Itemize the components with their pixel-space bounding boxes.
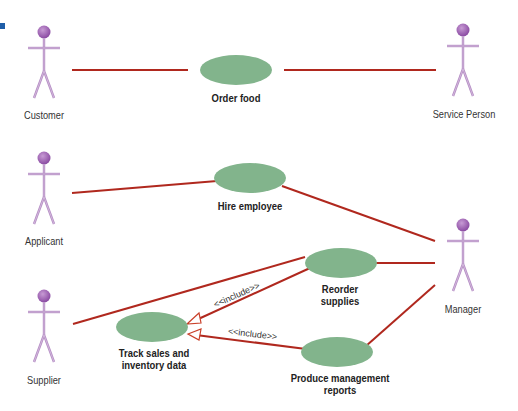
actor-service-person-icon[interactable]	[447, 24, 479, 97]
actor-manager-icon[interactable]	[447, 219, 479, 292]
actor-label-supplier: Supplier	[18, 374, 71, 386]
usecase-label-produce-reports: Produce management reports	[286, 372, 394, 396]
usecase-label-line: supplies	[304, 295, 376, 307]
usecase-produce-reports[interactable]	[301, 337, 373, 367]
include-reorder-track	[194, 268, 310, 321]
assoc-hire-employee-manager	[282, 186, 435, 241]
usecase-label-line: Reorder	[304, 283, 376, 295]
actor-applicant-icon[interactable]	[28, 152, 60, 225]
usecase-label-line: Track sales and	[109, 347, 199, 359]
include-arrowheads	[187, 313, 201, 340]
assoc-supplier-reorder	[73, 257, 305, 324]
actor-supplier-icon[interactable]	[28, 290, 60, 363]
assoc-produce-reports-manager	[366, 285, 435, 346]
usecase-label-order-food: Order food	[200, 92, 272, 104]
usecase-label-reorder-supplies: Reorder supplies	[304, 283, 376, 307]
usecase-label-line: reports	[286, 384, 394, 396]
usecase-label-track-sales: Track sales and inventory data	[109, 347, 199, 371]
arrowhead-icon	[187, 313, 201, 324]
usecase-hire-employee[interactable]	[214, 163, 286, 193]
assoc-applicant-hire-employee	[72, 181, 217, 193]
usecase-reorder-supplies[interactable]	[305, 248, 377, 278]
arrowhead-icon	[188, 329, 201, 340]
actor-customer-icon[interactable]	[28, 26, 60, 99]
usecase-order-food[interactable]	[200, 55, 272, 85]
actor-label-manager: Manager	[437, 303, 490, 315]
actor-label-customer: Customer	[18, 109, 71, 121]
usecase-label-line: Produce management	[286, 372, 394, 384]
actor-label-service-person: Service Person	[428, 108, 500, 120]
actor-label-applicant: Applicant	[18, 235, 71, 247]
usecase-label-line: inventory data	[109, 359, 199, 371]
usecase-track-sales[interactable]	[116, 312, 188, 342]
usecase-label-hire-employee: Hire employee	[205, 200, 295, 212]
